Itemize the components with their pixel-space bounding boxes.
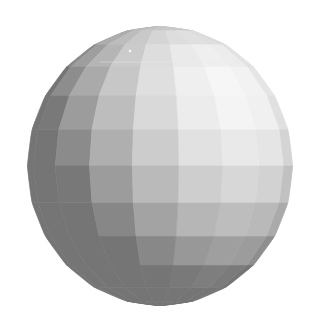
sphere-facet <box>176 202 220 236</box>
sphere-facet <box>132 130 178 166</box>
sphere-facet <box>220 130 259 166</box>
sphere-facet <box>176 96 220 130</box>
sphere-facets <box>27 26 293 306</box>
sphere-facet <box>140 265 173 287</box>
sphere-facet <box>90 130 134 166</box>
sphere-facet <box>255 130 283 166</box>
sphere-facet <box>34 130 59 166</box>
sphere-facet <box>136 236 176 265</box>
sphere-facet <box>55 166 92 202</box>
sphere-facet <box>132 166 178 202</box>
sphere-facet <box>133 96 178 130</box>
sphere-figure: Flat-shaded faceted sphere <box>0 0 315 327</box>
sphere-facet <box>34 166 59 202</box>
sphere-facet <box>178 130 223 166</box>
sphere-facet <box>90 166 134 202</box>
sphere-facet <box>92 96 136 130</box>
sphere-facet <box>136 67 176 96</box>
faceted-sphere <box>0 0 315 327</box>
sphere-facet <box>178 166 223 202</box>
sphere-facet <box>220 166 259 202</box>
sphere-facet <box>133 202 178 236</box>
sphere-facet <box>55 130 92 166</box>
sphere-facet <box>255 166 283 202</box>
sphere-facet <box>140 45 173 67</box>
highlight-dot <box>129 50 131 52</box>
sphere-facet <box>92 202 136 236</box>
